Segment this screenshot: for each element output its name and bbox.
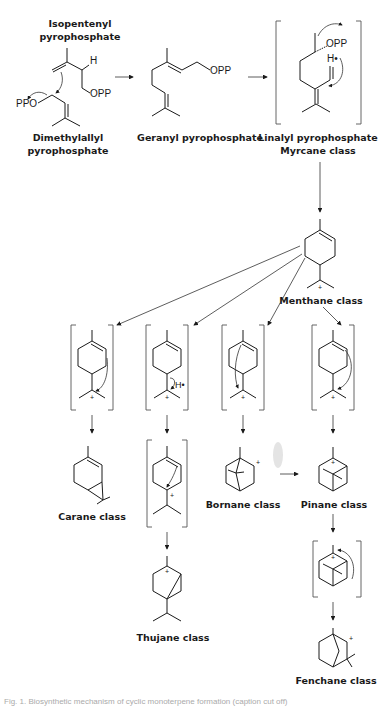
ppo-atom: PPO — [16, 98, 37, 109]
carane-structure: Carane class — [58, 446, 126, 522]
dmapp-label-1: Dimethylallyl — [33, 132, 104, 143]
cation-plus: + — [256, 459, 260, 466]
cation-plus: + — [165, 568, 169, 575]
pinane-label: Pinane class — [301, 499, 368, 510]
pinane-structure: + Pinane class — [301, 447, 368, 510]
figure-caption: Fig. 1. Biosynthetic mechanism of cyclic… — [4, 697, 288, 706]
thujane-second-intermediate: + — [147, 440, 187, 527]
menthane-label: Menthane class — [279, 295, 363, 306]
opp-atom-gpp: OPP — [210, 65, 231, 76]
gpp-label: Geranyl pyrophosphate — [137, 132, 263, 143]
cation-plus: + — [90, 394, 94, 401]
h-atom: H — [90, 55, 97, 66]
arrow-to-pinane-branch — [323, 307, 341, 325]
scan-smudge — [273, 442, 283, 468]
cation-plus: + — [318, 284, 322, 291]
menthane-structure: + Menthane class — [279, 219, 363, 306]
bornane-intermediate: + — [222, 325, 264, 410]
cation-plus: + — [165, 394, 169, 401]
carane-intermediate: + — [71, 325, 113, 410]
arrow-to-bornane-branch — [268, 258, 305, 325]
cation-plus: + — [331, 554, 335, 561]
ipp-label-1: Isopentenyl — [49, 18, 112, 29]
fenchane-structure: + Fenchane class — [295, 628, 377, 686]
myrcane-label: Myrcane class — [280, 145, 356, 156]
gpp-structure: OPP Geranyl pyrophosphate — [137, 48, 263, 143]
thujane-structure: + Thujane class — [137, 556, 210, 643]
bornane-structure: + Bornane class — [206, 447, 281, 510]
dmapp-label-2: pyrophosphate — [28, 145, 109, 156]
cation-plus: + — [331, 459, 335, 466]
cation-plus: + — [331, 394, 335, 401]
bornane-label: Bornane class — [206, 499, 281, 510]
fenchane-label: Fenchane class — [295, 675, 377, 686]
cation-plus: + — [349, 635, 353, 642]
opp-atom-lpp: OPP — [326, 38, 347, 49]
fenchane-intermediate: + — [313, 541, 361, 597]
monoterpene-biosynthesis-diagram: Isopentenyl pyrophosphate H OPP PPO Dime… — [0, 0, 388, 706]
carane-label: Carane class — [58, 511, 126, 522]
ipp-dmapp-structure: Isopentenyl pyrophosphate H OPP PPO Dime… — [16, 18, 120, 156]
opp-atom-ipp: OPP — [90, 88, 111, 99]
lpp-structure: OPP H• Linalyl pyrophosphate Myrcane cla… — [258, 21, 377, 156]
h-dot-atom-lpp: H• — [327, 53, 338, 64]
pinane-intermediate: + — [312, 325, 354, 410]
cation-plus: + — [241, 394, 245, 401]
thujane-intermediate: + H• — [146, 325, 188, 410]
lpp-label-1: Linalyl pyrophosphate — [258, 132, 377, 143]
arrow-to-thujane-branch — [194, 254, 302, 325]
arrow-to-carane-branch — [117, 246, 300, 325]
cation-plus: + — [170, 492, 174, 499]
thujane-label: Thujane class — [137, 632, 210, 643]
ipp-label-2: pyrophosphate — [40, 31, 121, 42]
h-dot-atom: H• — [175, 380, 185, 390]
